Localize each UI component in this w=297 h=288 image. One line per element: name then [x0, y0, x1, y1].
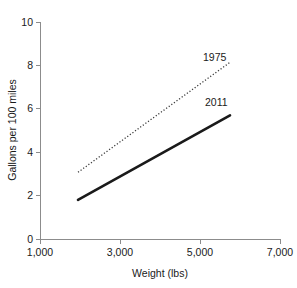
- y-tick-label-0: 0: [27, 233, 33, 245]
- x-axis-title: Weight (lbs): [132, 267, 188, 279]
- x-tick-label-7000: 7,000: [267, 246, 293, 258]
- y-tick-label-2: 2: [27, 189, 33, 201]
- series-line-2011: [78, 115, 230, 200]
- fuel-consumption-chart: 10 8 6 4 2 0 1,000 3,000 5,000 7,000 Wei…: [0, 0, 297, 288]
- x-tick-label-1000: 1,000: [27, 246, 53, 258]
- y-tick-label-8: 8: [27, 59, 33, 71]
- y-tick-label-4: 4: [27, 146, 33, 158]
- series-label-1975: 1975: [203, 51, 227, 63]
- y-axis-title: Gallons per 100 miles: [6, 79, 18, 181]
- series-line-1975: [78, 62, 230, 172]
- y-tick-label-6: 6: [27, 102, 33, 114]
- y-tick-label-10: 10: [21, 16, 33, 28]
- x-tick-label-5000: 5,000: [187, 246, 213, 258]
- series-label-2011: 2011: [205, 96, 228, 108]
- chart-plot-area: 10 8 6 4 2 0 1,000 3,000 5,000 7,000 Wei…: [0, 0, 297, 288]
- x-tick-label-3000: 3,000: [107, 246, 133, 258]
